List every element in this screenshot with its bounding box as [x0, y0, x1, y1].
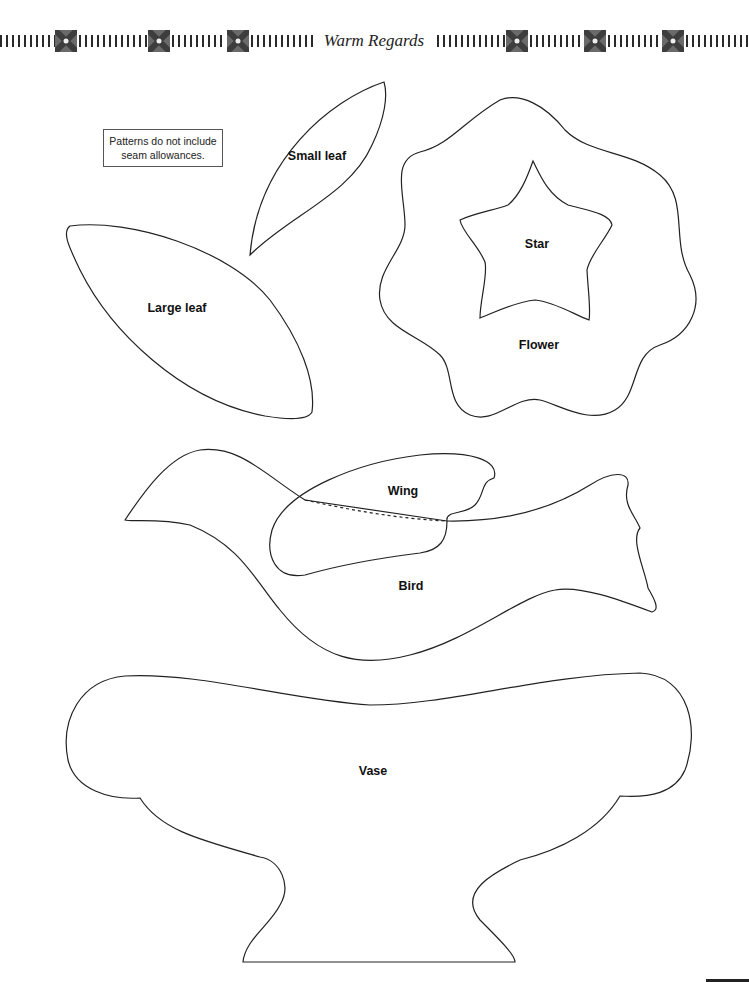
- label-large-leaf: Large leaf: [147, 301, 206, 315]
- bird-shape: [125, 449, 656, 660]
- vase-shape: [66, 673, 691, 962]
- small-leaf-shape: [250, 82, 386, 255]
- large-leaf-shape: [66, 225, 312, 419]
- label-small-leaf: Small leaf: [288, 149, 346, 163]
- label-vase: Vase: [359, 764, 388, 778]
- flower-shape: [379, 98, 695, 417]
- pattern-shapes: [0, 0, 749, 982]
- label-star: Star: [525, 237, 549, 251]
- label-wing: Wing: [388, 484, 418, 498]
- label-bird: Bird: [399, 579, 424, 593]
- label-flower: Flower: [519, 338, 559, 352]
